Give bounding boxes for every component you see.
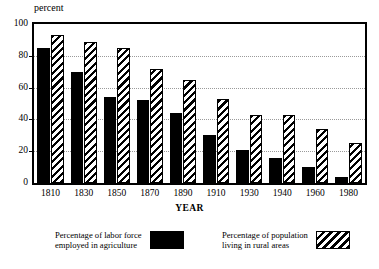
bar-1810-series2 xyxy=(51,35,64,183)
bar-1960-series1 xyxy=(302,167,315,183)
bar-group xyxy=(137,24,163,183)
y-axis-title: percent xyxy=(34,2,63,14)
bar-1830-series1 xyxy=(71,72,84,183)
bar-group xyxy=(71,24,97,183)
bar-1810-series1 xyxy=(37,48,50,183)
bar-1850-series1 xyxy=(104,97,117,183)
y-tick-label-60: 60 xyxy=(2,83,28,93)
bar-1910-series1 xyxy=(203,135,216,183)
y-tick-mark-80 xyxy=(29,56,33,57)
x-tick-label-1830: 1830 xyxy=(74,188,93,198)
bar-1870-series2 xyxy=(150,69,163,183)
x-tick-label-1910: 1910 xyxy=(207,188,226,198)
bar-1980-series1 xyxy=(335,177,348,183)
bar-group xyxy=(335,24,361,183)
bar-1830-series2 xyxy=(84,42,97,184)
plot-inner xyxy=(34,24,365,183)
chart-legend: Percentage of labor force employed in ag… xyxy=(0,230,379,262)
bar-1850-series2 xyxy=(117,48,130,183)
bar-group xyxy=(236,24,262,183)
solid-black-swatch-icon xyxy=(150,231,184,249)
bar-group xyxy=(203,24,229,183)
y-tick-label-100: 100 xyxy=(2,19,28,29)
legend-item-rural-population: Percentage of population living in rural… xyxy=(222,230,350,251)
bar-group xyxy=(170,24,196,183)
bar-chart: percent 020406080100 1810183018501870189… xyxy=(0,0,379,269)
y-tick-label-40: 40 xyxy=(2,115,28,125)
y-tick-label-0: 0 xyxy=(2,178,28,188)
bar-group xyxy=(302,24,328,183)
bar-1940-series1 xyxy=(269,158,282,183)
x-tick-label-1870: 1870 xyxy=(140,188,159,198)
bar-group xyxy=(37,24,63,183)
bar-1940-series2 xyxy=(283,115,296,183)
diagonal-hatch-swatch-icon xyxy=(316,231,350,249)
x-tick-label-1930: 1930 xyxy=(240,188,259,198)
plot-area xyxy=(32,22,367,185)
x-tick-label-1810: 1810 xyxy=(41,188,60,198)
bar-1930-series1 xyxy=(236,150,249,183)
legend-label-rural-population: Percentage of population living in rural… xyxy=(222,230,308,251)
legend-label-labor-force: Percentage of labor force employed in ag… xyxy=(55,230,142,251)
x-tick-label-1940: 1940 xyxy=(273,188,292,198)
bar-group xyxy=(269,24,295,183)
y-tick-mark-40 xyxy=(29,119,33,120)
bar-group xyxy=(104,24,130,183)
x-tick-label-1850: 1850 xyxy=(107,188,126,198)
bar-1890-series1 xyxy=(170,113,183,183)
legend-item-labor-force: Percentage of labor force employed in ag… xyxy=(55,230,184,251)
y-tick-mark-20 xyxy=(29,151,33,152)
x-tick-label-1890: 1890 xyxy=(173,188,192,198)
y-tick-label-20: 20 xyxy=(2,146,28,156)
x-tick-label-1960: 1960 xyxy=(306,188,325,198)
x-axis-title: YEAR xyxy=(0,203,379,213)
bar-1930-series2 xyxy=(250,115,263,183)
bar-1910-series2 xyxy=(217,99,230,183)
bar-1980-series2 xyxy=(349,143,362,183)
x-tick-label-1980: 1980 xyxy=(339,188,358,198)
bar-1890-series2 xyxy=(183,80,196,183)
bar-1960-series2 xyxy=(316,129,329,183)
y-tick-mark-60 xyxy=(29,88,33,89)
y-tick-label-80: 80 xyxy=(2,51,28,61)
bar-1870-series1 xyxy=(137,100,150,183)
